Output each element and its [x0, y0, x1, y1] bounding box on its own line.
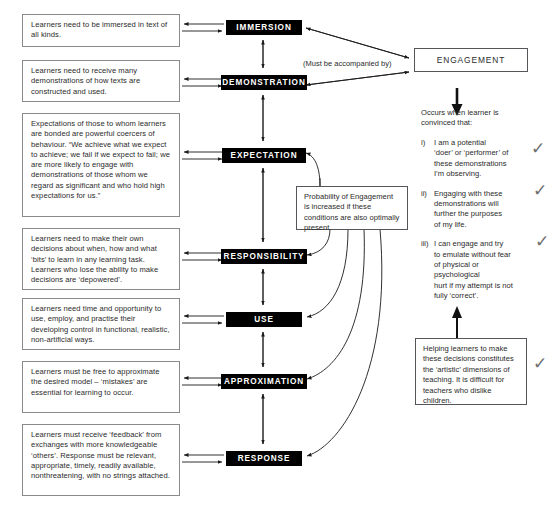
probability-note-box: Probability of Engagement is increased i…: [296, 186, 408, 230]
engagement-intro-text: Occurs when learner is convinced that:: [421, 108, 551, 129]
process-box-response[interactable]: RESPONSE: [226, 451, 302, 466]
check-mark-icon: ✓: [531, 140, 545, 157]
engagement-item-number: iii): [421, 239, 434, 301]
engagement-conditions-list: i) I am a potential ‘doer’ or ‘performer…: [421, 138, 547, 311]
process-box-responsibility[interactable]: RESPONSIBILITY: [221, 249, 307, 264]
process-box-immersion[interactable]: IMMERSION: [226, 20, 302, 35]
teaching-note-up-arrow: [452, 306, 462, 338]
engagement-item-text: Engaging with these demonstrations will …: [434, 189, 502, 231]
condition-box-response: Learners must receive ‘feedback’ from ex…: [22, 424, 180, 496]
engagement-box[interactable]: ENGAGEMENT: [414, 48, 528, 72]
teaching-note-box: Helping learners to make these decisions…: [415, 338, 527, 405]
check-mark-icon: ✓: [535, 233, 549, 250]
engagement-list-item: i) I am a potential ‘doer’ or ‘performer…: [421, 138, 547, 180]
engagement-list-item: ii) Engaging with these demonstrations w…: [421, 189, 547, 231]
engagement-item-text: I am a potential ‘doer’ or ‘performer’ o…: [434, 138, 508, 180]
engagement-item-number: i): [421, 138, 434, 180]
must-be-accompanied-by-label: (Must be accompanied by): [303, 59, 391, 68]
process-box-approximation[interactable]: APPROXIMATION: [221, 374, 307, 389]
condition-box-use: Learners need time and opportunity to us…: [22, 298, 180, 350]
process-box-demonstration[interactable]: DEMONSTRATION: [221, 75, 307, 90]
check-mark-icon: ✓: [533, 355, 547, 372]
check-mark-icon: ✓: [533, 182, 547, 199]
process-box-use[interactable]: USE: [226, 312, 302, 327]
condition-box-approximation: Learners must be free to approximate the…: [22, 361, 180, 413]
condition-box-demonstration: Learners need to receive many demonstrat…: [22, 60, 180, 102]
condition-box-expectation: Expectations of those to whom learners a…: [22, 113, 180, 217]
engagement-list-item: iii) I can engage and try to emulate wit…: [421, 239, 547, 301]
engagement-item-text: I can engage and try to emulate without …: [434, 239, 513, 301]
process-box-expectation[interactable]: EXPECTATION: [222, 148, 306, 163]
condition-box-responsibility: Learners need to make their own decision…: [22, 228, 180, 290]
engagement-item-number: ii): [421, 189, 434, 231]
diagram-canvas: Learners need to be immersed in text of …: [0, 0, 557, 508]
condition-box-immersion: Learners need to be immersed in text of …: [22, 14, 180, 47]
